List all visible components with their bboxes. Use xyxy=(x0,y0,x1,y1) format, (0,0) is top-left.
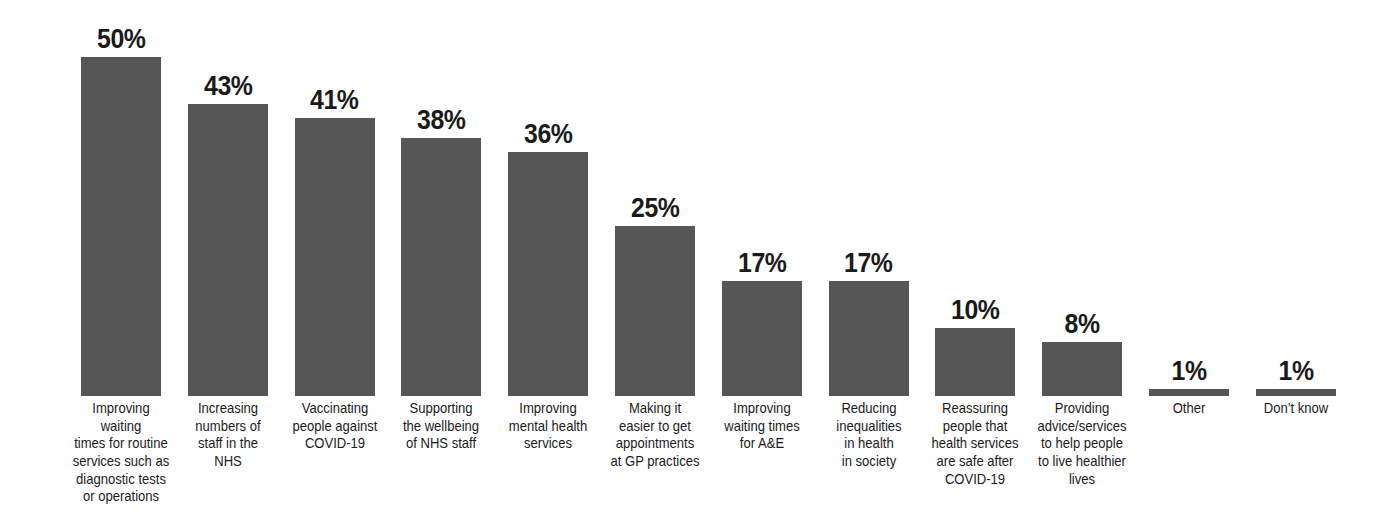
bar[interactable] xyxy=(1042,342,1122,396)
bar-category-label: Increasing numbers of staff in the NHS xyxy=(177,400,278,471)
bar-category-label: Don’t know xyxy=(1245,400,1346,418)
bar-value-label: 38% xyxy=(417,107,465,134)
bar-column: 8% xyxy=(1042,311,1122,396)
bar-category-label: Supporting the wellbeing of NHS staff xyxy=(391,400,492,453)
bar-value-label: 41% xyxy=(310,87,358,114)
bar-column: 25% xyxy=(615,195,695,396)
bar-category-label: Providing advice/services to help people… xyxy=(1032,400,1133,488)
bar-value-label: 17% xyxy=(738,250,786,277)
bar-group: 43% xyxy=(188,0,268,396)
bar[interactable] xyxy=(508,152,588,396)
bar[interactable] xyxy=(1149,389,1229,396)
bar-value-label: 25% xyxy=(631,195,679,222)
bar-category-label: Improving waiting times for routine serv… xyxy=(71,400,172,506)
bar-category-label: Vaccinating people against COVID-19 xyxy=(284,400,385,453)
bar-column: 41% xyxy=(295,87,375,396)
bar-column: 10% xyxy=(935,297,1015,396)
bar-category-label: Improving mental health services xyxy=(498,400,599,453)
bar-group: 8% xyxy=(1042,0,1122,396)
bar-value-label: 8% xyxy=(1065,311,1100,338)
bar[interactable] xyxy=(81,57,161,396)
bar-group: 50% xyxy=(81,0,161,396)
bar-column: 43% xyxy=(188,73,268,396)
bar-value-label: 43% xyxy=(204,73,252,100)
bar-group: 38% xyxy=(401,0,481,396)
bar-value-label: 36% xyxy=(524,121,572,148)
bar-column: 1% xyxy=(1256,358,1336,396)
bar[interactable] xyxy=(188,104,268,396)
bar-category-label: Making it easier to get appointments at … xyxy=(605,400,706,471)
bar-column: 38% xyxy=(401,107,481,396)
bar-value-label: 10% xyxy=(951,297,999,324)
bar-category-label: Reassuring people that health services a… xyxy=(925,400,1026,488)
bar-category-label: Improving waiting times for A&E xyxy=(711,400,812,453)
bar-group: 17% xyxy=(722,0,802,396)
bar-chart: 50%43%41%38%36%25%17%17%10%8%1%1% Improv… xyxy=(0,0,1395,531)
bar[interactable] xyxy=(829,281,909,396)
bar-column: 36% xyxy=(508,121,588,396)
bar-group: 1% xyxy=(1149,0,1229,396)
bar-group: 25% xyxy=(615,0,695,396)
bar-group: 1% xyxy=(1256,0,1336,396)
bar-group: 17% xyxy=(829,0,909,396)
bar[interactable] xyxy=(722,281,802,396)
bar-category-label: Reducing inequalities in health in socie… xyxy=(818,400,919,471)
bar-value-label: 1% xyxy=(1172,358,1207,385)
bar-value-label: 50% xyxy=(97,26,145,53)
bar[interactable] xyxy=(401,138,481,396)
bar-group: 10% xyxy=(935,0,1015,396)
bar-column: 17% xyxy=(829,250,909,396)
bar-value-label: 1% xyxy=(1278,358,1313,385)
bar[interactable] xyxy=(295,118,375,396)
bar-value-label: 17% xyxy=(844,250,892,277)
bar-category-label: Other xyxy=(1139,400,1240,418)
bar[interactable] xyxy=(615,226,695,396)
plot-area: 50%43%41%38%36%25%17%17%10%8%1%1% xyxy=(0,0,1395,396)
category-label-band: Improving waiting times for routine serv… xyxy=(0,400,1395,531)
bar-column: 1% xyxy=(1149,358,1229,396)
bar-group: 36% xyxy=(508,0,588,396)
bar-column: 50% xyxy=(81,26,161,396)
bar[interactable] xyxy=(1256,389,1336,396)
bar-group: 41% xyxy=(295,0,375,396)
bar[interactable] xyxy=(935,328,1015,396)
bar-column: 17% xyxy=(722,250,802,396)
